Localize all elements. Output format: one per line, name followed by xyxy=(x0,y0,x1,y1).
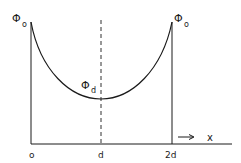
x-tick-o: o xyxy=(29,150,35,160)
phi-o-right-symbol: Φ xyxy=(174,12,183,25)
phi-d-sub: d xyxy=(91,86,96,95)
x-axis-label: x xyxy=(207,132,213,143)
phi-o-left-sub: o xyxy=(22,20,27,29)
phi-d-symbol: Φ xyxy=(81,79,90,92)
phi-o-left-symbol: Φ xyxy=(12,12,21,25)
phi-o-right-sub: o xyxy=(184,20,189,29)
potential-curve xyxy=(31,22,172,99)
x-tick-d: d xyxy=(98,150,104,160)
potential-diagram: Φ o Φ o Φ d o d 2d x xyxy=(0,0,241,163)
x-tick-2d: 2d xyxy=(165,150,176,160)
